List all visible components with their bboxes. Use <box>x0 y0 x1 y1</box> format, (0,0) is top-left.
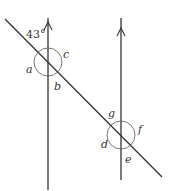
angle-label-b: b <box>54 80 61 93</box>
angle-label-a: a <box>26 63 33 76</box>
angle-label-f: f <box>137 123 144 136</box>
angle-label-e: e <box>125 153 132 166</box>
parallel-lines-diagram: 43° a b c g f d e <box>0 0 169 191</box>
given-angle-label: 43° <box>26 28 46 41</box>
angle-label-g: g <box>108 107 115 120</box>
transversal-line <box>5 19 162 177</box>
angle-label-d: d <box>101 138 108 151</box>
angle-label-c: c <box>63 48 69 61</box>
